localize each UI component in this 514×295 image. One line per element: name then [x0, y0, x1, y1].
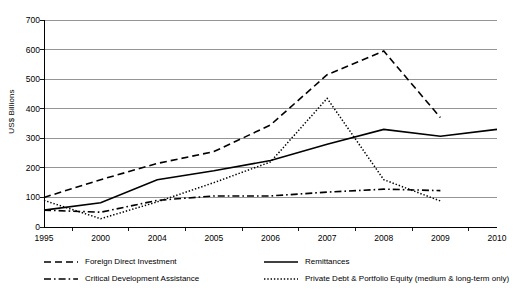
x-tick-label: 2004	[127, 234, 187, 243]
legend-swatch	[44, 257, 78, 267]
legend-item: Remittances	[264, 255, 349, 269]
x-tick-label: 2000	[71, 234, 131, 243]
legend-label: Remittances	[305, 257, 349, 267]
x-tick-label: 2007	[297, 234, 357, 243]
legend-item: Foreign Direct Investment	[44, 255, 177, 269]
x-tick-label: 2005	[184, 234, 244, 243]
x-tick-label: 2009	[410, 234, 470, 243]
legend-item: Critical Development Assistance	[44, 272, 199, 286]
legend-label: Private Debt & Portfolio Equity (medium …	[305, 274, 509, 284]
legend-swatch	[264, 257, 298, 267]
legend-swatch	[264, 274, 298, 284]
x-tick-label: 2010	[467, 234, 514, 243]
legend-label: Critical Development Assistance	[85, 274, 199, 284]
x-tick-label: 2008	[354, 234, 414, 243]
chart-legend: Foreign Direct InvestmentRemittancesCrit…	[44, 255, 499, 291]
plot-area: US$ Billions 0100200300400500600700 1995…	[0, 0, 506, 250]
x-tick-labels: 199520002004200520062007200820092010	[0, 0, 506, 250]
legend-swatch	[44, 274, 78, 284]
legend-label: Foreign Direct Investment	[85, 257, 177, 267]
x-tick-label: 2006	[241, 234, 301, 243]
legend-item: Private Debt & Portfolio Equity (medium …	[264, 272, 509, 286]
x-tick-label: 1995	[14, 234, 74, 243]
